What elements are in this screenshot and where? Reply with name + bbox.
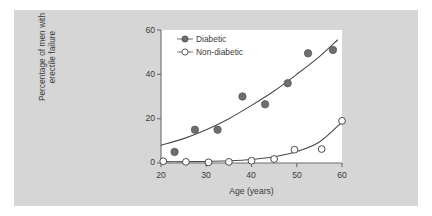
chart-canvas bbox=[0, 0, 432, 216]
fit-curve-layer bbox=[161, 40, 342, 162]
figure-page: Percentage of men with erectile failure … bbox=[0, 0, 432, 216]
data-point-layer bbox=[160, 46, 346, 165]
axis-layer bbox=[157, 30, 342, 167]
